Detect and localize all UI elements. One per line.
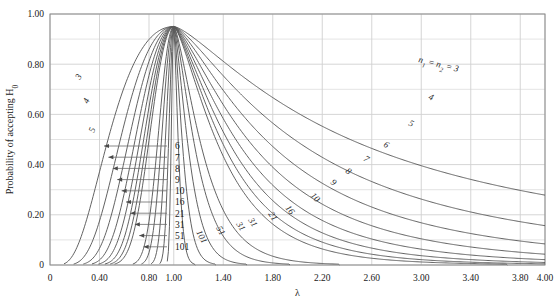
x-axis-title: λ	[295, 287, 300, 298]
y-axis-title: Probability of accepting H0	[4, 84, 20, 194]
legend-label-6: 6	[175, 141, 180, 151]
x-tick-label: 1.80	[264, 273, 281, 283]
x-tick-label: 0	[48, 273, 53, 283]
legend-label-10: 10	[175, 186, 185, 196]
legend-label-7: 7	[175, 153, 180, 163]
legend-label-16: 16	[175, 197, 185, 207]
y-tick-label: 0.60	[27, 110, 44, 120]
y-tick-label: 0.40	[27, 160, 44, 170]
legend-label-51: 51	[175, 231, 185, 241]
x-tick-label: 3.00	[413, 273, 430, 283]
x-tick-label: 0.80	[141, 273, 158, 283]
y-tick-label: 1.00	[27, 9, 44, 19]
x-tick-label: 1.40	[215, 273, 232, 283]
legend-label-21: 21	[175, 209, 185, 219]
x-tick-label: 3.80	[512, 273, 529, 283]
y-tick-label: 0.80	[27, 60, 44, 70]
chart-container: 00.400.801.001.401.802.202.603.003.403.8…	[0, 0, 557, 301]
legend-label-101: 101	[175, 242, 190, 252]
legend-label-31: 31	[175, 220, 185, 230]
oc-curve-plot: 00.400.801.001.401.802.202.603.003.403.8…	[0, 0, 557, 301]
legend-label-9: 9	[175, 175, 180, 185]
x-tick-label: 4.00	[537, 273, 554, 283]
y-tick-label: 0	[39, 260, 44, 270]
legend-label-8: 8	[175, 164, 180, 174]
x-tick-label: 2.60	[363, 273, 380, 283]
x-tick-label: 0.40	[91, 273, 108, 283]
x-tick-label: 1.00	[165, 273, 182, 283]
x-tick-label: 2.20	[314, 273, 331, 283]
y-tick-label: 0.20	[27, 210, 44, 220]
x-tick-label: 3.40	[462, 273, 479, 283]
